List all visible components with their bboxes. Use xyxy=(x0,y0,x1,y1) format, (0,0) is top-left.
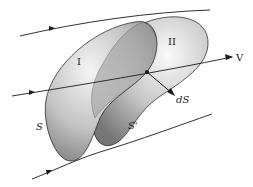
label-surface-s-prime: S' xyxy=(128,120,138,131)
arrow-bottom-icon xyxy=(46,170,52,175)
label-vector-ds: dS xyxy=(176,94,189,105)
intersection-point xyxy=(145,70,149,74)
diagram-canvas: I II V dS S S' xyxy=(0,0,253,187)
label-surface-s: S xyxy=(36,121,43,132)
arrow-v-icon xyxy=(225,54,233,60)
label-vector-v: V xyxy=(235,52,244,63)
label-region-2: II xyxy=(168,36,176,47)
label-region-1: I xyxy=(77,56,81,67)
